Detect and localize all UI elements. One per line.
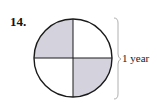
curly-brace xyxy=(114,18,121,99)
duration-label: 1 year xyxy=(122,52,149,64)
